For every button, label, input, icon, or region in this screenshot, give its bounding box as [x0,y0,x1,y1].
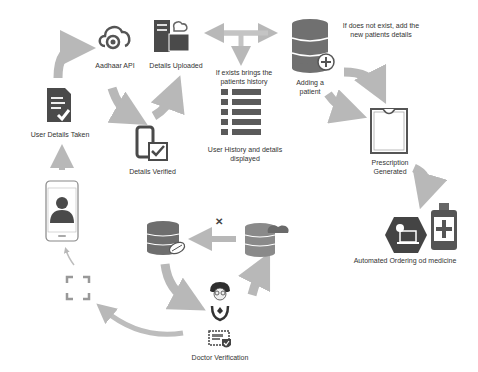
details-verified-label: Details Verified [125,168,180,177]
clipboard-icon [370,108,408,154]
user-details-taken-label: User Details Taken [20,131,100,140]
prescription-label: Prescription Generated [360,159,420,176]
cloud-fingerprint-icon [97,22,133,52]
server-folder-cloud-icon [152,18,192,54]
automated-ordering-label: Automated Ordering od medicine [345,257,465,266]
scan-frame-icon [66,276,90,300]
phone-user-icon [45,180,79,242]
phone-check-icon [135,127,169,163]
arrow-curve-up2 [154,92,174,116]
list-icon [221,89,265,137]
aadhaar-api-label: Aadhaar API [90,62,140,71]
database-pill-icon [146,221,188,257]
doctor-verification-label: Doctor Verification [180,354,260,363]
database-cloud-icon [244,221,292,257]
user-history-label: User History and details displayed [200,146,290,163]
exists-note: If exists brings the patients history [210,69,278,86]
doctor-certificate-icon [208,330,232,350]
cross-mark-icon: ✕ [215,216,223,227]
gear-laptop-hexagon-icon [384,216,428,254]
not-exist-note: If does not exist, add the new patients … [336,22,426,39]
adding-patient-label: Adding a patient [290,79,330,96]
arrow-curve-down [112,88,132,116]
document-check-icon [45,88,75,124]
arrow-curve-up [58,48,78,78]
medicine-bottle-icon [430,203,458,251]
details-uploaded-label: Details Uploaded [146,62,206,71]
doctor-icon [208,282,232,322]
database-plus-icon [290,18,336,74]
